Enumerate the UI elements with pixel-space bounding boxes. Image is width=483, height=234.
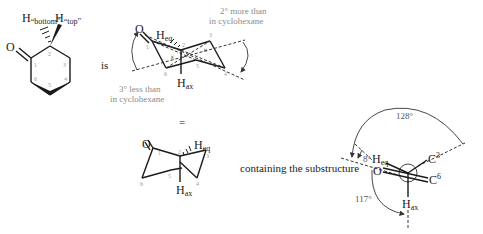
conformation-diagram: O H“bottom” H“top” 1 2 3 4 5 6 is bbox=[0, 0, 483, 234]
ring-number: 5 bbox=[196, 63, 199, 69]
h-top-label: H“top” bbox=[55, 11, 81, 26]
ring-number: 4 bbox=[196, 181, 199, 187]
ring-number: 4 bbox=[224, 71, 227, 77]
oxygen-label: O bbox=[6, 40, 15, 54]
ring-number: 2 bbox=[182, 42, 185, 48]
equals-connector: = bbox=[179, 116, 185, 128]
angle-117: 117° bbox=[355, 194, 372, 204]
c6-label: C6 bbox=[429, 172, 441, 187]
ring-number: 6 bbox=[140, 181, 143, 187]
ring-number: 4 bbox=[64, 76, 67, 82]
h-eq-label: Heq bbox=[372, 152, 388, 167]
ring-number: 3 bbox=[63, 62, 66, 68]
h-ax-label: Hax bbox=[402, 197, 418, 212]
h-eq-label: Heq bbox=[194, 138, 210, 153]
structure-3-chair: O Heq Hax 1 2 3 4 5 6 bbox=[140, 137, 210, 198]
h-eq-label: Heq bbox=[156, 28, 172, 43]
structure-1-flat-ring: O H“bottom” H“top” 1 2 3 4 5 6 bbox=[6, 11, 81, 95]
note-more-than: 2° more than in cyclohexane bbox=[209, 6, 269, 26]
oxygen-label: O bbox=[142, 137, 151, 151]
structure-2-chair: O Heq Hax × × 1 2 3 4 5 6 2° more than i… bbox=[110, 6, 269, 104]
ring-number: 5 bbox=[48, 82, 51, 88]
ring-number: 2 bbox=[48, 51, 51, 57]
ring-number: 5 bbox=[168, 173, 171, 179]
ring-number: 2 bbox=[178, 149, 181, 155]
ring-number: 3 bbox=[206, 153, 209, 159]
ring-number: 6 bbox=[34, 76, 37, 82]
ring-number: 6 bbox=[164, 71, 167, 77]
ring-number: 1 bbox=[146, 44, 149, 50]
ring-number: 3 bbox=[209, 32, 212, 38]
svg-text:×: × bbox=[170, 53, 175, 62]
svg-text:×: × bbox=[203, 46, 208, 55]
ring-number: 1 bbox=[158, 150, 161, 156]
c3-label: C3 bbox=[428, 151, 440, 166]
newman-projection: O Heq C3 C6 Hax 128° 8° 117° bbox=[341, 108, 465, 228]
h-ax-label: Hax bbox=[176, 183, 192, 198]
note-less-than: 3° less than in cyclohexane bbox=[110, 84, 164, 104]
is-connector: is bbox=[101, 59, 108, 71]
containing-substructure-text: containing the substructure bbox=[240, 162, 359, 174]
angle-128: 128° bbox=[396, 111, 414, 121]
angle-8: 8° bbox=[363, 154, 372, 164]
h-ax-label: Hax bbox=[177, 76, 193, 91]
ring-number: 1 bbox=[34, 62, 37, 68]
